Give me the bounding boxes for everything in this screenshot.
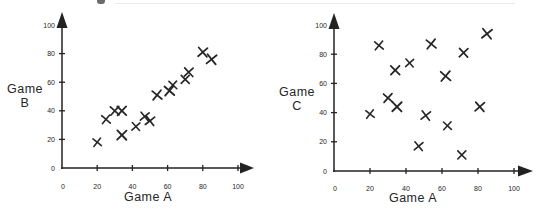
data-point-x-marker: [132, 123, 140, 131]
data-point-x-marker: [475, 102, 484, 111]
data-point-x-marker: [117, 106, 126, 115]
data-point-x-marker: [443, 122, 451, 130]
right-chart-y-axis-title: Game C: [273, 86, 321, 113]
chart-1: 020406080100020406080100: [315, 13, 533, 192]
data-point-x-marker: [198, 47, 207, 56]
data-point-x-marker: [145, 116, 154, 125]
y-axis-title-line: B: [1, 97, 49, 111]
data-point-x-marker: [406, 59, 414, 67]
x-axis-arrow-icon: [518, 166, 533, 177]
x-tick-label: 0: [333, 185, 337, 192]
y-tick-label: 100: [315, 22, 327, 29]
data-point-x-marker: [458, 151, 466, 159]
data-point-x-marker: [140, 112, 149, 121]
plot-canvas: 0204060801000204060801000204060801000204…: [0, 0, 537, 218]
chart-0: 020406080100020406080100: [43, 12, 254, 190]
scatterplot-figure: 0204060801000204060801000204060801000204…: [0, 0, 537, 218]
left-chart-x-axis-title: Game A: [108, 190, 188, 204]
y-axis-title-line: C: [273, 100, 321, 114]
y-tick-label: 0: [323, 168, 327, 175]
data-point-x-marker: [102, 115, 111, 124]
data-point-x-marker: [392, 102, 401, 111]
y-tick-label: 100: [43, 22, 55, 29]
x-tick-label: 80: [199, 183, 207, 190]
data-point-x-marker: [459, 48, 468, 57]
data-point-x-marker: [414, 142, 423, 151]
data-point-x-marker: [375, 41, 384, 50]
data-point-x-marker: [421, 111, 430, 120]
left-chart-y-axis-title: Game B: [1, 83, 49, 110]
x-tick-label: 80: [474, 185, 482, 192]
x-tick-label: 0: [61, 183, 65, 190]
y-axis-arrow-icon: [329, 13, 340, 29]
data-point-x-marker: [441, 71, 451, 81]
data-point-x-marker: [93, 138, 102, 147]
data-point-x-marker: [426, 39, 436, 49]
y-axis-title-line: Game: [273, 86, 321, 100]
x-axis-arrow-icon: [240, 163, 254, 174]
y-tick-label: 20: [47, 136, 55, 143]
data-point-x-marker: [384, 94, 393, 103]
x-tick-label: 100: [508, 185, 520, 192]
y-tick-label: 80: [47, 50, 55, 57]
right-chart-x-axis-title: Game A: [373, 191, 453, 205]
data-point-x-marker: [482, 29, 492, 39]
data-point-x-marker: [207, 54, 217, 64]
y-axis-title-line: Game: [1, 83, 49, 97]
y-tick-label: 20: [319, 138, 327, 145]
data-point-x-marker: [391, 66, 400, 75]
x-tick-label: 60: [164, 183, 172, 190]
y-tick-label: 0: [51, 165, 55, 172]
data-point-x-marker: [366, 110, 375, 119]
data-point-x-marker: [152, 90, 162, 100]
data-point-x-marker: [164, 86, 174, 96]
data-point-x-marker: [117, 130, 126, 139]
x-tick-label: 40: [129, 183, 137, 190]
x-tick-label: 100: [232, 183, 244, 190]
x-tick-label: 20: [93, 183, 101, 190]
y-tick-label: 80: [319, 51, 327, 58]
